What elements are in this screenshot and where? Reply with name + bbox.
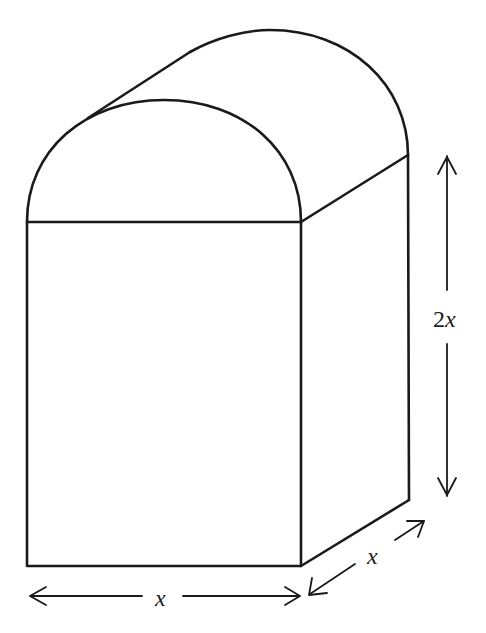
bottom-right-edge: [301, 500, 409, 566]
top-tangent-edge: [88, 52, 190, 118]
solid-shape: [27, 30, 409, 566]
height-dimension: 2x: [433, 156, 456, 496]
width-label: x: [154, 585, 166, 611]
front-arch: [27, 100, 301, 222]
front-rectangle-face: [27, 222, 301, 566]
back-arch: [190, 30, 408, 155]
depth-label: x: [366, 543, 378, 569]
depth-arrow-lower-line: [310, 564, 355, 594]
right-top-edge: [301, 155, 408, 222]
depth-dimension: x: [309, 521, 424, 595]
prism-half-cylinder-diagram: 2x x x: [0, 0, 486, 633]
width-dimension: x: [30, 585, 300, 611]
height-label: 2x: [433, 306, 456, 332]
right-back-vertical-edge: [408, 155, 409, 500]
